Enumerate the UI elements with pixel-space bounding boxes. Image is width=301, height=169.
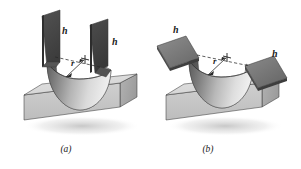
caption-a: (a) [60, 144, 71, 155]
flange-left-bend-a [42, 62, 60, 67]
label-h-right-a: h [112, 36, 118, 47]
caption-b: (b) [202, 144, 213, 155]
flange-left-edge-a [42, 15, 44, 67]
radius-arrowhead-a [66, 73, 72, 77]
flange-left-a[interactable] [42, 10, 60, 67]
radius-arrow-line-a [66, 60, 84, 77]
label-r-b: r [213, 56, 217, 66]
engineering-figure-canvas: h h r (a) [0, 0, 301, 169]
center-cross-mark-a [81, 55, 89, 64]
label-h-right-b: h [272, 48, 278, 59]
label-h-left-a: h [62, 25, 68, 36]
panel-a: h h r (a) [24, 10, 140, 155]
figure-container: h h r (a) [0, 0, 301, 169]
drop-shadow-a [24, 116, 140, 136]
flange-right-a[interactable] [90, 19, 108, 73]
label-r-a: r [71, 58, 75, 68]
panel-b: h h r (b) [157, 24, 287, 155]
radius-arrow-line-b [208, 58, 226, 75]
label-h-left-b: h [173, 24, 179, 35]
flange-right-edge-a [90, 24, 92, 73]
drop-shadow-b [167, 116, 283, 136]
